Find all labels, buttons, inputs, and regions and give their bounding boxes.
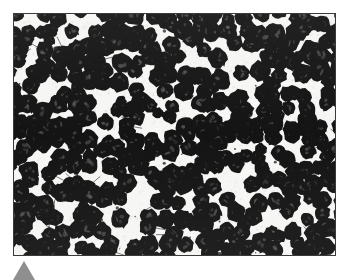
figure-root bbox=[0, 0, 348, 280]
micrograph-frame bbox=[13, 13, 336, 256]
micrograph-image bbox=[14, 14, 335, 255]
corner-marker-triangle-icon bbox=[13, 261, 35, 280]
